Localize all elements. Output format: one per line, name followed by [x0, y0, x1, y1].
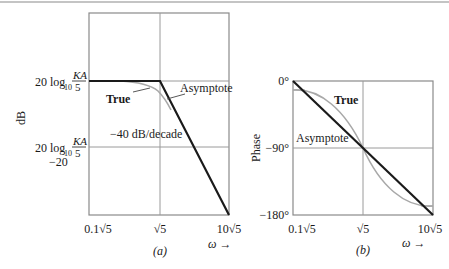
xtick-label: 10√5	[217, 222, 242, 236]
y-axis-label: Phase	[249, 134, 263, 162]
asymptote-label: Asymptote	[180, 81, 233, 95]
caption-a: (a)	[153, 244, 167, 258]
xtick-label: 0.1√5	[288, 222, 316, 236]
xtick-label: √5	[154, 222, 167, 236]
svg-text:5: 5	[75, 81, 81, 93]
xtick-label: √5	[357, 222, 370, 236]
true-label: True	[106, 92, 131, 106]
xtick-label: 0.1√5	[84, 222, 112, 236]
svg-text:20 log: 20 log	[35, 75, 65, 89]
ytick-top: 20 log 10 KA 5	[35, 69, 87, 93]
asymptote-label: Asymptote	[296, 131, 349, 145]
svg-text:KA: KA	[72, 69, 87, 81]
caption-b: (b)	[356, 243, 370, 257]
svg-text:5: 5	[75, 147, 81, 159]
xtick-label: 10√5	[418, 222, 443, 236]
ytick-mid: 20 log 10 KA 5 −20	[35, 135, 87, 169]
magnitude-plot: True Asymptote −40 dB/decade 20 log 10 K…	[14, 13, 241, 258]
x-axis-label: ω →	[208, 237, 231, 251]
svg-text:−20: −20	[49, 155, 68, 169]
plot-frame	[89, 13, 229, 215]
svg-text:KA: KA	[72, 135, 87, 147]
ytick-label: −90°	[265, 141, 289, 155]
true-label: True	[334, 93, 359, 107]
bode-figure: True Asymptote −40 dB/decade 20 log 10 K…	[0, 0, 449, 269]
svg-text:10: 10	[64, 83, 72, 92]
ytick-label: 0°	[278, 74, 289, 88]
phase-plot: True Asymptote 0° −90° −180° Phase 0.1√5…	[249, 74, 442, 257]
svg-text:20 log: 20 log	[35, 141, 65, 155]
slope-label: −40 dB/decade	[110, 127, 182, 141]
y-axis-label: dB	[14, 111, 28, 125]
x-axis-label: ω →	[402, 236, 425, 250]
true-leader	[133, 88, 150, 92]
ytick-label: −180°	[259, 208, 289, 222]
